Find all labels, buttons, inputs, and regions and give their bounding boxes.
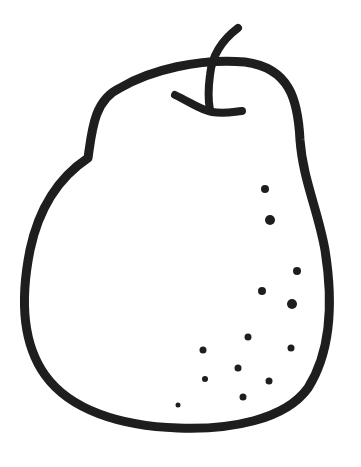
speckle-dot xyxy=(261,185,269,193)
speckle-dot xyxy=(245,334,252,341)
speckle-dot xyxy=(265,215,275,225)
speckle-dot xyxy=(176,403,181,408)
speckle-dot xyxy=(202,376,208,382)
pear-drawing: pear line drawing xyxy=(0,0,361,467)
speckle-dot xyxy=(288,345,295,352)
speckle-dot xyxy=(240,394,247,401)
pear-speckles xyxy=(176,185,302,408)
speckle-dot xyxy=(258,287,266,295)
speckle-dot xyxy=(287,299,297,309)
stem xyxy=(209,28,239,110)
speckle-dot xyxy=(235,365,242,372)
pear-illustration xyxy=(0,0,361,467)
speckle-dot xyxy=(293,267,301,275)
speckle-dot xyxy=(200,347,207,354)
speckle-dot xyxy=(266,378,273,385)
pear-outline xyxy=(25,61,330,428)
